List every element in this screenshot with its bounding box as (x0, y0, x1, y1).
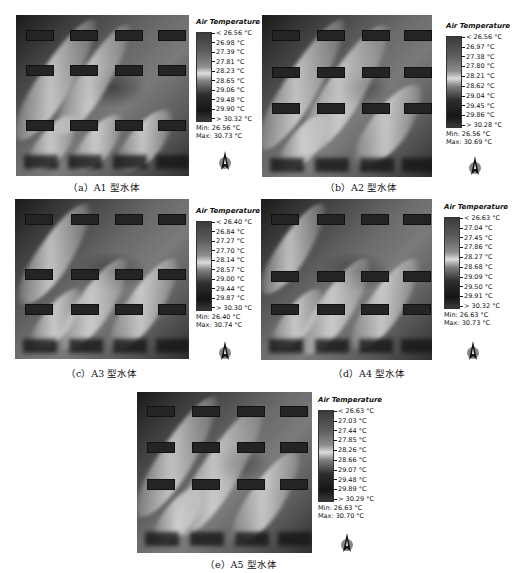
legend-tick: 27.27 °C (212, 237, 244, 245)
caption-a: （a）A1 型水体 (68, 180, 140, 194)
legend-tick: > 30.30 °C (212, 304, 252, 312)
color-bar (444, 217, 460, 309)
legend-title: Air Temperature (444, 203, 508, 211)
north-arrow-icon (468, 155, 482, 177)
max-value: Max: 30.70 °C (318, 512, 364, 520)
temperature-map-e (137, 392, 312, 553)
legend-title: Air Temperature (196, 18, 260, 26)
legend-tick: 26.98 °C (212, 39, 244, 47)
legend-tick: 27.70 °C (212, 247, 244, 255)
legend-tick: 29.00 °C (212, 275, 244, 283)
north-arrow-icon (340, 532, 354, 554)
legend-tick: 28.14 °C (212, 256, 244, 264)
legend-tick: 29.09 °C (460, 273, 492, 281)
caption-d: （d）A4 型水体 (333, 366, 405, 380)
temperature-map-a (16, 15, 189, 176)
max-value: Max: 30.74 °C (196, 321, 242, 329)
legend-title: Air Temperature (446, 22, 510, 30)
legend-tick: 28.65 °C (212, 77, 244, 85)
min-value: Min: 26.56 °C (196, 124, 240, 132)
legend-tick: 29.48 °C (334, 476, 366, 484)
legend-tick: 28.26 °C (334, 446, 366, 454)
legend-tick: 28.62 °C (462, 82, 494, 90)
legend-tick: > 30.28 °C (462, 121, 502, 129)
min-value: Min: 26.40 °C (196, 313, 240, 321)
legend-tick: < 26.40 °C (212, 218, 252, 226)
legend-tick: < 26.63 °C (334, 407, 374, 415)
legend-tick: 27.45 °C (460, 234, 492, 242)
caption-c: （c）A3 型水体 (66, 366, 137, 380)
legend-tick: 26.97 °C (462, 43, 494, 51)
north-arrow-icon (218, 340, 232, 362)
color-bar (446, 36, 462, 128)
legend-tick: 28.21 °C (462, 72, 494, 80)
legend-tick: 28.27 °C (460, 253, 492, 261)
legend-tick: 29.87 °C (212, 294, 244, 302)
min-value: Min: 26.63 °C (318, 504, 362, 512)
legend-tick: > 30.32 °C (460, 302, 500, 310)
color-bar (196, 32, 212, 122)
legend-tick: 27.03 °C (334, 417, 366, 425)
legend-tick: 29.89 °C (334, 485, 366, 493)
legend-tick: 29.07 °C (334, 466, 366, 474)
legend-tick: 29.91 °C (460, 292, 492, 300)
legend-tick: < 26.56 °C (462, 33, 502, 41)
legend-title: Air Temperature (196, 207, 260, 215)
temperature-map-b (262, 15, 432, 177)
max-value: Max: 30.73 °C (444, 319, 490, 327)
north-arrow-icon (218, 150, 232, 172)
legend-tick: 28.23 °C (212, 67, 244, 75)
north-arrow-icon (466, 340, 480, 362)
legend-tick: 27.85 °C (334, 436, 366, 444)
legend-tick: 27.04 °C (460, 224, 492, 232)
max-value: Max: 30.69 °C (446, 138, 492, 146)
max-value: Max: 30.73 °C (196, 132, 242, 140)
legend-tick: 27.38 °C (462, 53, 494, 61)
legend-e: Air Temperature < 26.63 °C 27.03 °C 27.4… (318, 396, 390, 521)
legend-tick: 28.57 °C (212, 266, 244, 274)
legend-tick: 27.39 °C (212, 48, 244, 56)
legend-tick: 26.84 °C (212, 228, 244, 236)
legend-tick: 28.66 °C (334, 456, 366, 464)
min-value: Min: 26.63 °C (444, 311, 488, 319)
legend-tick: 27.86 °C (460, 243, 492, 251)
min-value: Min: 26.56 °C (446, 130, 490, 138)
legend-tick: 29.45 °C (462, 102, 494, 110)
legend-tick: 28.68 °C (460, 263, 492, 271)
legend-title: Air Temperature (318, 396, 382, 404)
temperature-map-d (261, 199, 432, 360)
legend-b: Air Temperature < 26.56 °C 26.97 °C 27.3… (446, 22, 516, 147)
color-bar (196, 221, 212, 311)
legend-c: Air Temperature < 26.40 °C 26.84 °C 27.2… (196, 207, 256, 327)
legend-tick: 29.48 °C (212, 96, 244, 104)
legend-tick: 27.44 °C (334, 427, 366, 435)
legend-a: Air Temperature < 26.56 °C 26.98 °C 27.3… (196, 18, 256, 138)
legend-tick: 27.81 °C (212, 58, 244, 66)
caption-b: （b）A2 型水体 (325, 180, 397, 194)
legend-tick: 29.44 °C (212, 285, 244, 293)
legend-tick: > 30.32 °C (212, 115, 252, 123)
legend-tick: < 26.56 °C (212, 29, 252, 37)
caption-e: （e）A5 型水体 (205, 557, 277, 571)
legend-tick: 29.86 °C (462, 111, 494, 119)
legend-tick: < 26.63 °C (460, 214, 500, 222)
legend-tick: 29.04 °C (462, 92, 494, 100)
temperature-map-c (15, 199, 189, 359)
color-bar (318, 410, 334, 502)
legend-d: Air Temperature < 26.63 °C 27.04 °C 27.4… (444, 203, 516, 328)
legend-tick: 29.06 °C (212, 86, 244, 94)
legend-tick: 29.90 °C (212, 105, 244, 113)
legend-tick: > 30.29 °C (334, 495, 374, 503)
legend-tick: 27.80 °C (462, 62, 494, 70)
legend-tick: 29.50 °C (460, 283, 492, 291)
